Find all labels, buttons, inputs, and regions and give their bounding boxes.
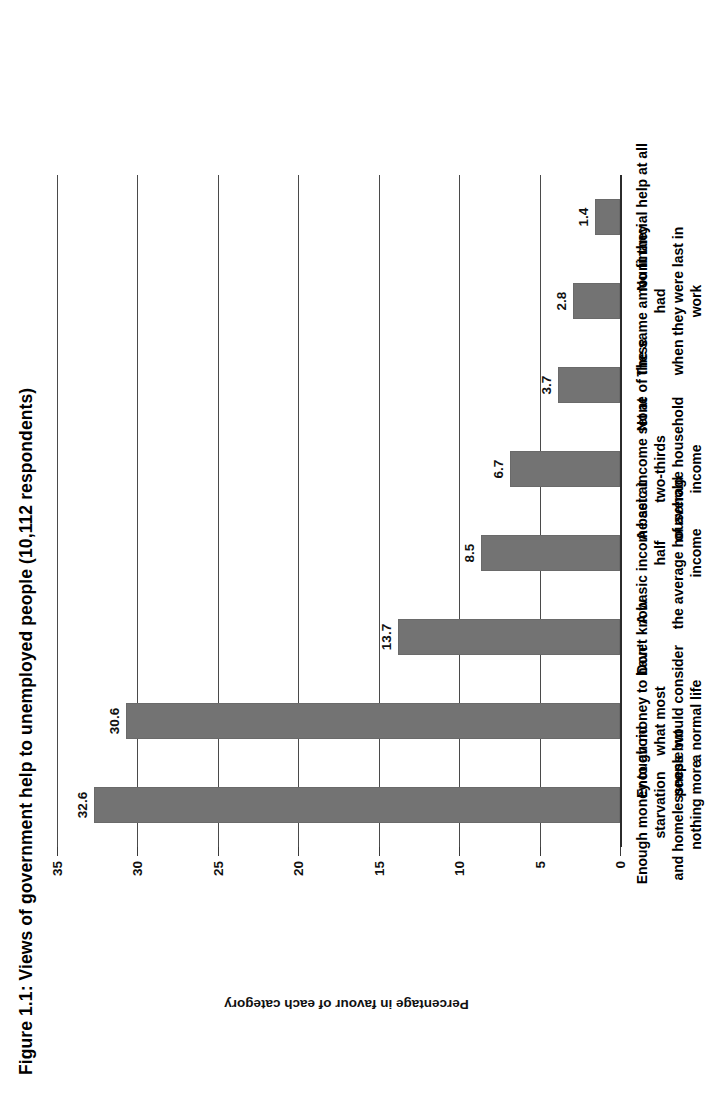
bar-value-label: 6.7 — [491, 460, 506, 479]
y-axis-tick-label: 15 — [371, 861, 386, 876]
y-axis-tick-label: 35 — [50, 861, 65, 876]
bar[interactable] — [126, 703, 620, 739]
bars-group: 32.630.613.78.56.73.72.81.4 — [57, 175, 620, 847]
bar-slot: 30.6 — [57, 679, 620, 763]
y-axis-tick-label: 10 — [452, 861, 467, 876]
bar-value-label: 13.7 — [379, 624, 394, 650]
bar-slot: 6.7 — [57, 427, 620, 511]
tick-mark — [540, 847, 541, 856]
plot-area: 05101520253035 32.630.613.78.56.73.72.81… — [57, 175, 620, 847]
bar[interactable] — [558, 367, 620, 403]
bar[interactable] — [510, 451, 620, 487]
figure-title: Figure 1.1: Views of government help to … — [16, 388, 37, 1075]
bar-value-label: 3.7 — [539, 376, 554, 395]
y-axis-tick-label: 20 — [291, 861, 306, 876]
value-axis-title: Percentage in favour of each category — [224, 997, 469, 1012]
bar-slot: 2.8 — [57, 259, 620, 343]
bar-slot: 8.5 — [57, 511, 620, 595]
bar[interactable] — [481, 535, 620, 571]
tick-mark — [218, 847, 219, 856]
y-axis-tick-label: 5 — [532, 861, 547, 869]
tick-mark — [57, 847, 58, 856]
category-label: No financial help at all — [634, 137, 652, 297]
bar[interactable] — [595, 199, 620, 235]
bar[interactable] — [398, 619, 620, 655]
bar-value-label: 2.8 — [554, 292, 569, 311]
bar-slot: 3.7 — [57, 343, 620, 427]
tick-mark — [459, 847, 460, 856]
y-axis-tick-label: 30 — [130, 861, 145, 876]
bar[interactable] — [573, 283, 620, 319]
tick-mark — [620, 847, 621, 856]
y-axis-tick-label: 25 — [210, 861, 225, 876]
bar-value-label: 1.4 — [576, 208, 591, 227]
tick-mark — [379, 847, 380, 856]
bar-value-label: 30.6 — [107, 708, 122, 734]
bar-slot: 13.7 — [57, 595, 620, 679]
bar[interactable] — [94, 787, 620, 823]
bar-slot: 1.4 — [57, 175, 620, 259]
y-axis-tick-label: 0 — [613, 861, 628, 869]
axis-baseline — [620, 175, 622, 847]
bar-value-label: 8.5 — [462, 544, 477, 563]
bar-slot: 32.6 — [57, 763, 620, 847]
bar-value-label: 32.6 — [75, 792, 90, 818]
tick-mark — [298, 847, 299, 856]
tick-mark — [137, 847, 138, 856]
